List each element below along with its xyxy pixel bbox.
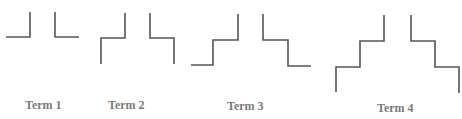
term-1-label: Term 1	[25, 98, 62, 112]
pattern-diagram: Term 1 Term 2 Term 3 Term 4	[0, 0, 462, 119]
term-4-figure	[336, 15, 459, 93]
term-4-label: Term 4	[377, 101, 414, 115]
term-3-left-step	[191, 14, 238, 65]
term-3-right-step	[263, 14, 311, 66]
term-3-label: Term 3	[227, 99, 264, 113]
term-1-left-step	[6, 12, 30, 37]
term-2-left-step	[101, 13, 125, 64]
term-1-figure	[6, 12, 79, 37]
term-2-label: Term 2	[108, 98, 145, 112]
term-2-figure	[101, 13, 174, 64]
term-3-figure	[191, 14, 311, 66]
term-1-right-step	[55, 12, 79, 37]
term-4-left-step	[336, 15, 384, 92]
term-4-right-step	[411, 15, 459, 93]
term-2-right-step	[150, 13, 174, 64]
